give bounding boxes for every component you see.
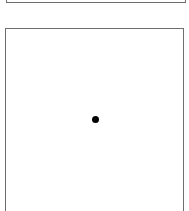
dot-marker <box>92 116 99 123</box>
top-panel <box>6 0 186 3</box>
